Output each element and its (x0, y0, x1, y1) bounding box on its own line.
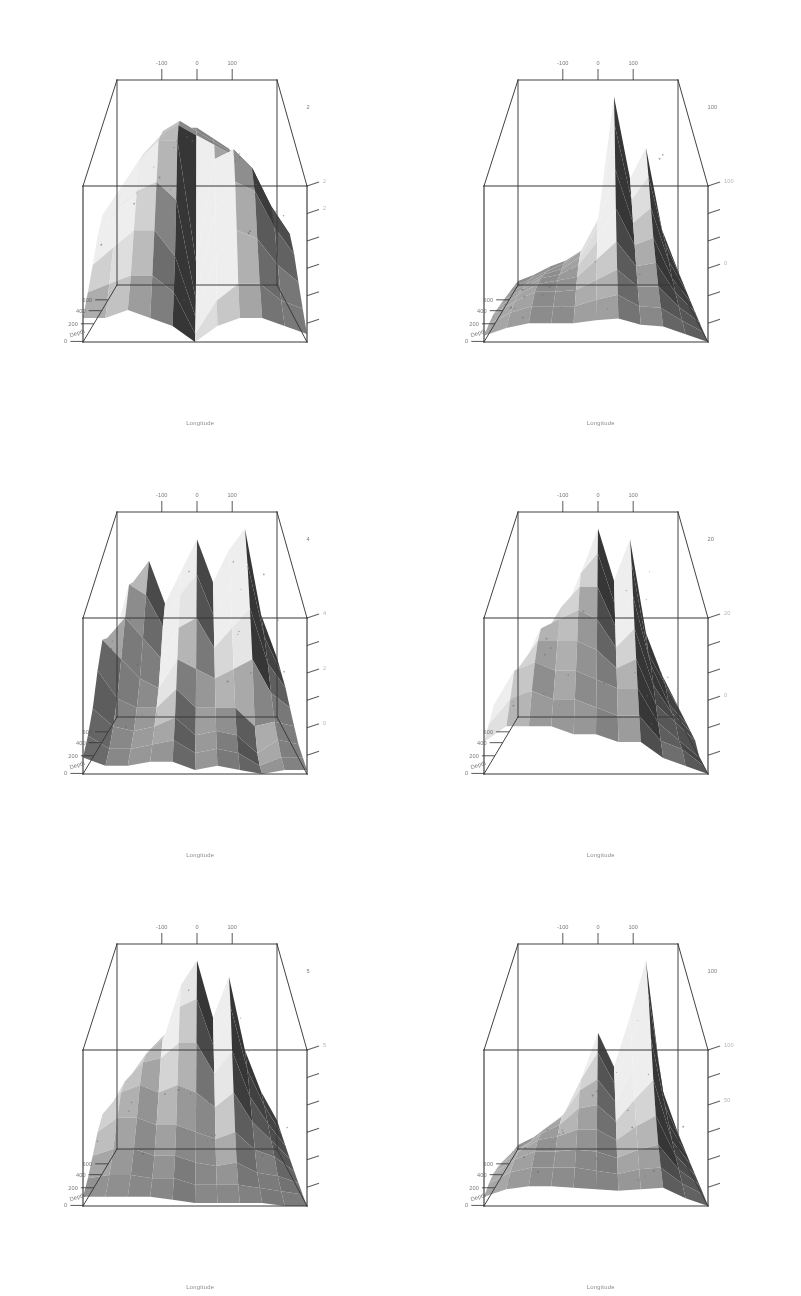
scan-speck (97, 1140, 99, 1142)
scan-speck (189, 661, 190, 662)
z-tick-label: 2 (323, 205, 326, 211)
x-tick-label: -100 (557, 924, 569, 930)
scan-speck (233, 561, 235, 563)
surface-facet (577, 1105, 597, 1130)
box-edge (277, 80, 307, 186)
surface-facet (529, 1168, 554, 1187)
z-tick (708, 264, 720, 268)
z-tick (708, 319, 720, 323)
z-tick (307, 1073, 319, 1077)
scan-speck (143, 1153, 145, 1155)
scan-speck (637, 1180, 638, 1181)
scan-speck (252, 1077, 253, 1078)
z-tick-label: 0 (323, 720, 326, 726)
scan-speck (207, 1141, 208, 1142)
scan-speck (544, 654, 546, 656)
scan-speck (613, 627, 615, 629)
surface-facet (576, 1130, 597, 1152)
z-tick-label: 4 (323, 610, 326, 616)
z-tick-label: 2 (323, 665, 326, 671)
scan-speck (639, 274, 640, 275)
z-tick (708, 1073, 720, 1077)
persp-canvas: -10001006004002000Depth222 (55, 36, 345, 396)
y-tick-label: 200 (68, 753, 78, 759)
scan-speck (634, 672, 635, 673)
x-tick-label: 100 (628, 492, 638, 498)
scan-speck (660, 672, 662, 674)
y-tick-label: 0 (64, 338, 67, 344)
y-tick-label: 200 (469, 321, 479, 327)
panel-6-xlabel: Longitude (401, 1284, 801, 1290)
scan-speck (510, 307, 512, 309)
z-tick (708, 1183, 720, 1187)
scan-speck (644, 1175, 645, 1176)
y-tick-label: 600 (83, 297, 93, 303)
scan-speck (129, 619, 130, 620)
z-tick (708, 724, 720, 728)
x-tick-label: 100 (228, 60, 238, 66)
scan-speck (545, 638, 547, 640)
surface-facet (128, 1175, 153, 1197)
surface-facet (216, 708, 237, 736)
scan-speck (504, 304, 505, 305)
scan-speck (248, 1051, 249, 1052)
z-tick (708, 292, 720, 296)
z-tick (307, 1156, 319, 1160)
persp-canvas: -10001006004002000Depth55 (55, 900, 345, 1260)
z-corner-label: 100 (707, 104, 717, 110)
scan-speck (237, 634, 238, 635)
scan-speck (616, 170, 618, 172)
surface-facet (155, 1125, 177, 1156)
scan-speck (201, 134, 202, 135)
scan-speck (239, 157, 240, 158)
scan-speck (605, 600, 606, 601)
scan-speck (248, 232, 250, 234)
y-tick-label: 400 (477, 740, 487, 746)
surface-facet (573, 1168, 596, 1190)
surface-facet (529, 306, 554, 323)
scan-speck (561, 307, 562, 308)
scan-speck (558, 1134, 559, 1135)
persp-canvas: -10001006004002000Depth4204 (55, 468, 345, 828)
scan-speck (275, 211, 276, 212)
scan-speck (283, 215, 285, 217)
z-tick-label: 0 (724, 692, 727, 698)
scan-speck (528, 1152, 529, 1153)
scan-speck (295, 1176, 296, 1177)
scan-speck (637, 1020, 638, 1021)
z-tick (307, 1128, 319, 1132)
z-tick (307, 319, 319, 323)
plot-cell-4: -10001006004002000Depth20020 Longitude (401, 432, 801, 864)
surface-facet (551, 306, 575, 323)
scan-speck (582, 610, 584, 612)
scan-speck (669, 723, 670, 724)
scan-speck (628, 175, 629, 176)
panel-3-xlabel: Longitude (0, 852, 401, 858)
scan-speck (562, 1129, 563, 1130)
z-tick (708, 696, 720, 700)
surface-facet (575, 1150, 597, 1171)
z-corner-label: 100 (707, 968, 717, 974)
scan-speck (178, 148, 180, 150)
scan-speck (650, 723, 652, 725)
scan-speck (263, 199, 264, 200)
x-tick-label: 0 (596, 924, 599, 930)
y-tick-label: 0 (465, 1202, 468, 1208)
z-tick (307, 182, 319, 186)
scan-speck (493, 316, 494, 317)
scan-speck (190, 1093, 191, 1094)
scan-speck (669, 1125, 671, 1127)
scan-speck (545, 307, 546, 308)
x-tick-label: -100 (557, 492, 569, 498)
box-edge (83, 80, 117, 186)
z-tick (307, 1101, 319, 1105)
box-edge (83, 512, 117, 618)
scan-speck (177, 140, 179, 142)
surface-facet (617, 688, 639, 716)
scan-speck (659, 287, 660, 288)
scan-speck (218, 754, 219, 755)
surface-facet (128, 276, 153, 319)
y-tick-label: 0 (64, 770, 67, 776)
x-tick-label: 100 (228, 924, 238, 930)
x-tick-label: 0 (596, 60, 599, 66)
